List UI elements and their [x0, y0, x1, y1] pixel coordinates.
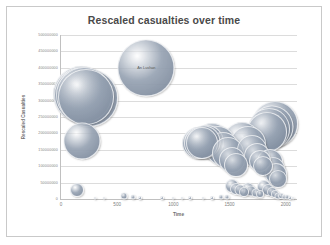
- x-axis-tick-label: 2000: [281, 202, 291, 207]
- y-axis-title: Rescaled Casualties: [21, 95, 26, 139]
- y-axis-tick-label: 100000000: [38, 164, 58, 168]
- plot-area: 0500000001000000001500000002000000002500…: [60, 35, 297, 200]
- data-bubble[interactable]: [138, 196, 142, 200]
- gridline: [61, 68, 297, 69]
- x-axis-tick-label: 1000: [168, 202, 178, 207]
- data-bubble[interactable]: [225, 195, 230, 200]
- gridline: [61, 51, 297, 52]
- data-bubble[interactable]: [291, 197, 294, 200]
- y-axis-tick-label: 400000000: [38, 66, 58, 70]
- y-axis-tick-label: 0: [56, 197, 58, 201]
- data-bubble[interactable]: [120, 193, 127, 200]
- x-axis-tick-label: 0: [60, 202, 63, 207]
- data-bubble[interactable]: [160, 196, 164, 200]
- data-bubble[interactable]: [130, 195, 135, 200]
- data-bubble[interactable]: [256, 190, 264, 198]
- data-bubble[interactable]: [239, 187, 249, 197]
- chart-frame: Rescaled casualties over time 0500000001…: [6, 6, 322, 237]
- data-bubble[interactable]: [201, 197, 204, 200]
- data-bubble[interactable]: [181, 197, 184, 200]
- data-bubble[interactable]: [93, 197, 96, 200]
- data-bubble[interactable]: [224, 153, 248, 177]
- y-axis-tick-label: 200000000: [38, 131, 58, 135]
- gridline: [61, 35, 297, 36]
- data-bubble[interactable]: [70, 183, 84, 197]
- y-axis-tick-label: 500000000: [38, 33, 58, 37]
- y-axis-tick-label: 150000000: [38, 148, 58, 152]
- x-axis-title: Time: [60, 212, 297, 217]
- data-bubble[interactable]: [58, 69, 114, 125]
- data-bubble[interactable]: [118, 40, 175, 97]
- data-bubble[interactable]: [102, 197, 105, 200]
- y-axis-tick-label: 50000000: [40, 181, 58, 185]
- data-bubble[interactable]: [188, 196, 192, 200]
- data-bubble[interactable]: [210, 196, 214, 200]
- y-axis-tick-label: 250000000: [38, 115, 58, 119]
- data-bubble[interactable]: [172, 197, 175, 200]
- x-axis-tick-label: 1500: [224, 202, 234, 207]
- y-axis-tick-label: 450000000: [38, 49, 58, 53]
- x-axis-tick-label: 500: [113, 202, 121, 207]
- data-bubble[interactable]: [218, 195, 223, 200]
- data-bubble[interactable]: [63, 123, 100, 160]
- chart-title: Rescaled casualties over time: [7, 14, 321, 26]
